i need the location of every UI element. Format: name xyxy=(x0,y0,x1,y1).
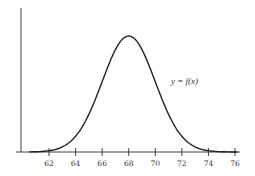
x-tick-label: 64 xyxy=(71,159,81,168)
x-tick-label: 66 xyxy=(97,159,107,168)
x-tick-label: 68 xyxy=(124,159,134,168)
bell-curve xyxy=(29,36,238,152)
x-tick-label: 72 xyxy=(177,159,187,168)
x-tick-label: 62 xyxy=(44,159,54,168)
x-tick-label: 76 xyxy=(230,159,240,168)
function-label: y = f(x) xyxy=(170,76,198,86)
x-tick-label: 74 xyxy=(204,159,214,168)
normal-curve-chart: 6264666870727476 y = f(x) xyxy=(0,0,255,176)
x-tick-label: 70 xyxy=(151,159,161,168)
